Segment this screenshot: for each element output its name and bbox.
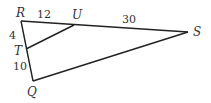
length-RT: 4: [9, 29, 16, 42]
length-RU: 12: [37, 8, 51, 21]
point-label-U: U: [72, 8, 83, 22]
point-label-S: S: [193, 25, 201, 39]
triangle-diagram: R U S T Q 12 30 4 10: [0, 0, 211, 103]
segment-QS: [33, 32, 188, 81]
point-label-T: T: [14, 44, 23, 58]
point-label-Q: Q: [27, 85, 37, 99]
point-label-R: R: [15, 6, 25, 20]
length-US: 30: [122, 13, 136, 26]
segment-RS: [21, 21, 188, 32]
segment-TU: [26, 25, 74, 49]
length-TQ: 10: [13, 60, 27, 73]
